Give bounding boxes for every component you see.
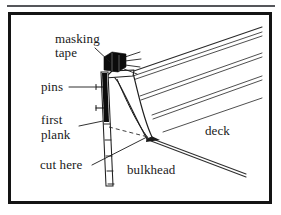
label-cut-here: cut here	[40, 158, 82, 172]
label-pins: pins	[41, 80, 63, 94]
leader-first-plank	[79, 121, 103, 126]
deck-upper-edge	[128, 27, 262, 73]
figure-page: masking tape pins first plank cut here b…	[0, 0, 281, 215]
label-bulkhead: bulkhead	[127, 163, 175, 177]
label-first-plank-line2: plank	[41, 128, 70, 142]
technical-drawing	[0, 0, 281, 215]
label-masking-tape-line2: tape	[55, 46, 77, 60]
label-first-plank-line1: first	[41, 113, 62, 127]
masking-tape-wedge	[104, 52, 126, 72]
label-deck: deck	[205, 124, 230, 138]
label-masking-tape-line1: masking	[55, 32, 100, 46]
leader-cut-here	[92, 137, 147, 165]
deck-plank-lines-upper	[130, 32, 262, 132]
